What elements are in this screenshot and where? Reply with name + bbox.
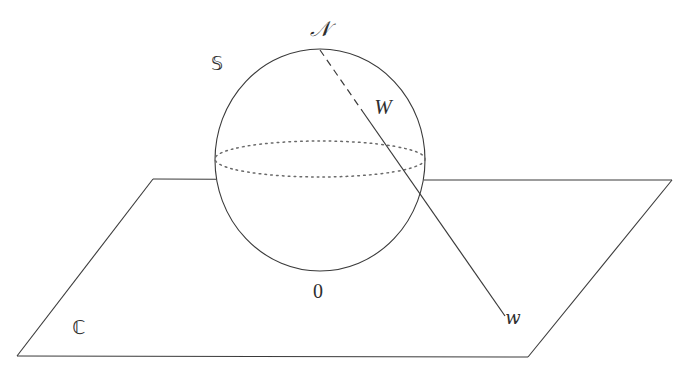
label-north-pole: 𝒩 [310, 19, 330, 40]
stereographic-projection-figure: 𝒩 𝕊 W 0 w ℂ [0, 0, 689, 381]
equator-ellipse [215, 141, 425, 177]
label-sphere: 𝕊 [211, 54, 223, 73]
label-origin: 0 [313, 281, 323, 301]
projection-ray-dashed [320, 50, 363, 112]
sphere-outline [215, 49, 425, 271]
label-point-on-plane: w [505, 309, 520, 327]
projection-ray-solid [363, 112, 505, 316]
plane-right-edge [528, 180, 672, 357]
label-point-on-sphere: W [374, 97, 392, 118]
label-complex-plane: ℂ [72, 318, 85, 337]
diagram-canvas [0, 0, 689, 381]
plane-front-edge [17, 356, 528, 357]
